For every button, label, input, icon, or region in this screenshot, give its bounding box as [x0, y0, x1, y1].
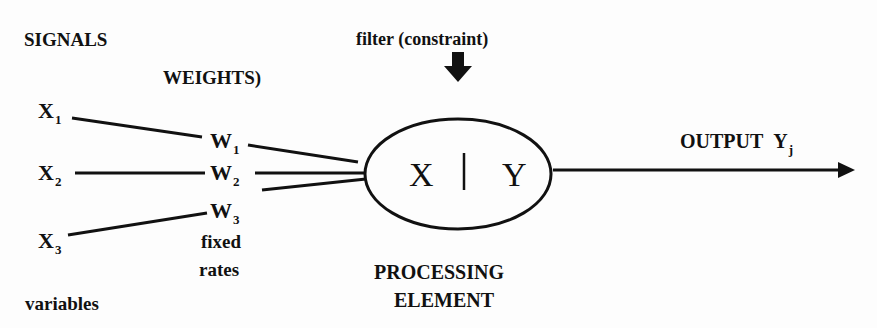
filter-label: filter (constraint)	[356, 30, 488, 48]
neural-processing-diagram: SIGNALS WEIGHTS) filter (constraint) X1 …	[0, 0, 877, 328]
pe-y-symbol: Y	[502, 158, 527, 192]
fixed-label: fixed	[201, 232, 241, 251]
input-x2: X2	[38, 162, 61, 184]
rates-label: rates	[199, 260, 239, 279]
variables-label: variables	[25, 294, 99, 313]
output-label: OUTPUT Yj	[680, 131, 793, 151]
signals-heading: SIGNALS	[24, 30, 107, 49]
element-label: ELEMENT	[394, 290, 494, 310]
weight-w1: W1	[210, 130, 240, 152]
weight-w3: W3	[210, 200, 240, 222]
right-arrow-icon	[838, 162, 855, 178]
weight-w2: W2	[210, 162, 240, 184]
input-x1: X1	[38, 100, 61, 122]
input-x3: X3	[38, 230, 61, 252]
weights-heading: WEIGHTS)	[163, 68, 261, 87]
pe-x-symbol: X	[409, 158, 434, 192]
down-arrow-icon	[444, 52, 472, 82]
processing-label: PROCESSING	[374, 262, 504, 282]
